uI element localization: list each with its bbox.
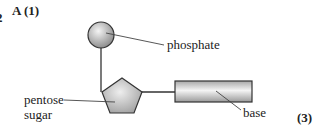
sugar-label: sugar [24,108,52,122]
base-rectangle [175,81,252,102]
base-label: base [243,106,266,120]
phosphate-leader [106,33,164,45]
pentose-label: pentose [24,93,64,107]
phosphate-circle [88,22,114,48]
pentose-pentagon [102,78,142,113]
marks-label: (3) [297,110,312,126]
phosphate-label: phosphate [167,38,220,52]
